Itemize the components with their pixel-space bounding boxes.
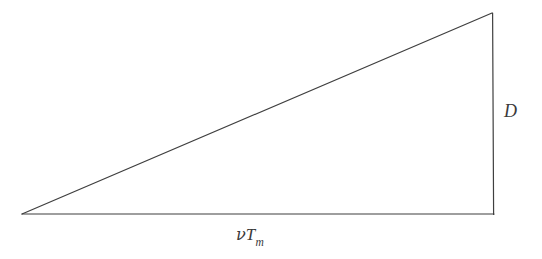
figure-canvas: νTm D	[0, 0, 542, 259]
hypotenuse-edge	[22, 13, 492, 214]
vertical-edge	[493, 13, 494, 214]
nu-symbol: ν	[236, 225, 246, 244]
subscript-m-symbol: m	[256, 236, 264, 249]
distance-variable-symbol: D	[504, 101, 517, 121]
triangle-diagram	[0, 0, 542, 259]
period-variable-symbol: T	[246, 225, 255, 244]
base-length-label: νTm	[236, 226, 264, 247]
height-label: D	[504, 102, 517, 120]
